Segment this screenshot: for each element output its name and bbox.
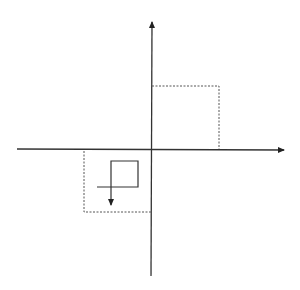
lower-left-dotted-rect <box>84 150 151 212</box>
y-axis <box>151 22 152 276</box>
diagram-canvas <box>0 0 300 290</box>
x-axis <box>17 149 284 150</box>
square-path-with-arrow <box>97 161 138 205</box>
upper-right-dotted-rect <box>152 86 219 149</box>
